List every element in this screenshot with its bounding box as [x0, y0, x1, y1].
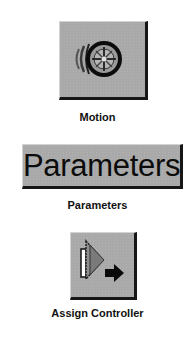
motion-wheel-icon: [60, 22, 145, 97]
parameters-button[interactable]: Parameters: [22, 144, 183, 189]
motion-button[interactable]: [59, 21, 148, 100]
assign-controller-icon: [71, 233, 134, 297]
assign-controller-button[interactable]: [70, 232, 137, 300]
parameters-button-text: Parameters: [23, 150, 180, 181]
assign-controller-label: Assign Controller: [0, 307, 195, 319]
parameters-label: Parameters: [0, 199, 195, 211]
motion-label: Motion: [0, 111, 195, 123]
